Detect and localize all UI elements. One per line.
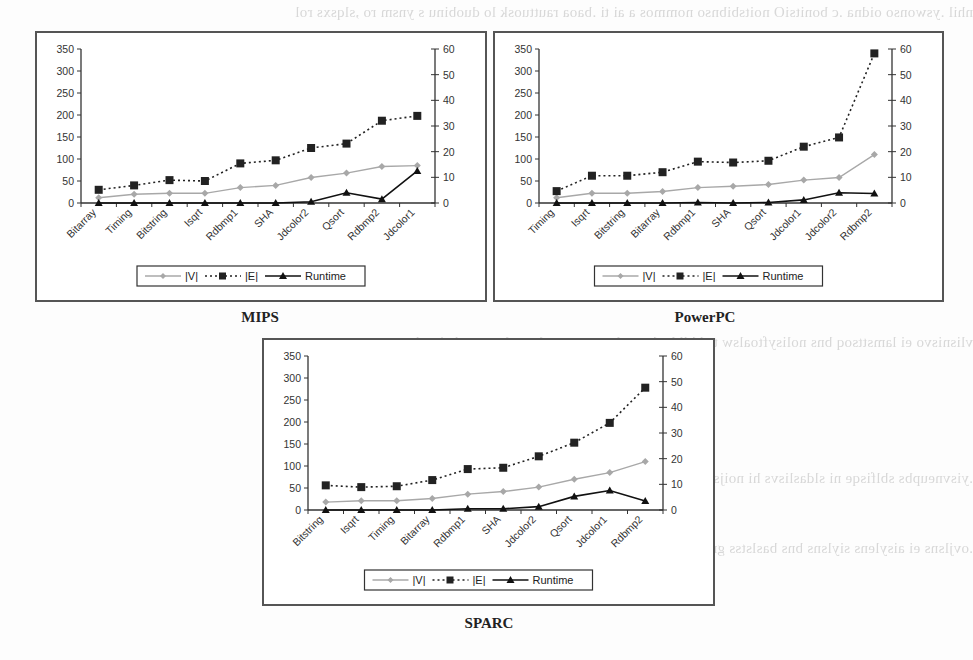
mips-chart: 0501001502002503003500102030405060Bitarr…: [35, 31, 487, 302]
svg-text:50: 50: [900, 69, 912, 81]
svg-text:10: 10: [900, 171, 912, 183]
svg-text:40: 40: [900, 94, 912, 106]
svg-text:50: 50: [520, 175, 532, 187]
svg-text:150: 150: [283, 438, 301, 450]
svg-text:250: 250: [514, 87, 532, 99]
svg-text:Rdbmp2: Rdbmp2: [608, 513, 645, 550]
svg-text:|E|: |E|: [473, 574, 486, 586]
svg-text:Bitarray: Bitarray: [398, 512, 433, 547]
svg-text:Jdcolor1: Jdcolor1: [767, 206, 804, 243]
svg-text:150: 150: [514, 131, 532, 143]
svg-text:150: 150: [56, 131, 74, 143]
svg-text:10: 10: [671, 478, 683, 490]
svg-text:|E|: |E|: [703, 270, 716, 282]
svg-text:40: 40: [443, 94, 455, 106]
svg-text:Bitstring: Bitstring: [134, 206, 169, 241]
svg-text:30: 30: [900, 120, 912, 132]
powerpc-caption: PowerPC: [605, 309, 805, 326]
chart-plot: 0501001502002503003500102030405060Bitstr…: [264, 340, 713, 604]
svg-text:50: 50: [289, 482, 301, 494]
svg-text:Bitarray: Bitarray: [64, 205, 99, 240]
svg-text:Jdcolor2: Jdcolor2: [274, 206, 311, 243]
svg-text:Isqrt: Isqrt: [338, 513, 361, 536]
svg-text:200: 200: [56, 109, 74, 121]
svg-text:Bitstring: Bitstring: [591, 206, 626, 241]
svg-text:10: 10: [443, 171, 455, 183]
svg-text:Rdbmp2: Rdbmp2: [345, 206, 382, 243]
svg-text:Timing: Timing: [526, 206, 557, 237]
svg-text:30: 30: [671, 427, 683, 439]
svg-text:Rdbmp2: Rdbmp2: [837, 206, 874, 243]
svg-text:Runtime: Runtime: [305, 270, 346, 282]
svg-text:250: 250: [56, 87, 74, 99]
svg-text:100: 100: [56, 153, 74, 165]
svg-text:0: 0: [68, 197, 74, 209]
svg-text:SHA: SHA: [479, 513, 503, 537]
svg-text:60: 60: [671, 350, 683, 362]
svg-text:50: 50: [443, 69, 455, 81]
svg-text:Jdcolor2: Jdcolor2: [802, 206, 839, 243]
svg-text:100: 100: [514, 153, 532, 165]
svg-text:|V|: |V|: [643, 270, 656, 282]
svg-text:Jdcolor1: Jdcolor1: [573, 513, 610, 550]
svg-text:100: 100: [283, 460, 301, 472]
svg-text:Rdbmp1: Rdbmp1: [661, 206, 698, 243]
svg-text:50: 50: [62, 175, 74, 187]
svg-text:40: 40: [671, 401, 683, 413]
svg-text:Jdcolor1: Jdcolor1: [380, 206, 417, 243]
svg-text:30: 30: [443, 120, 455, 132]
svg-text:Qsort: Qsort: [741, 206, 768, 233]
svg-text:350: 350: [283, 350, 301, 362]
svg-text:200: 200: [514, 109, 532, 121]
svg-text:0: 0: [295, 504, 301, 516]
svg-text:0: 0: [671, 504, 677, 516]
svg-text:0: 0: [900, 197, 906, 209]
svg-text:Isqrt: Isqrt: [568, 206, 591, 229]
svg-text:20: 20: [900, 146, 912, 158]
svg-text:Qsort: Qsort: [319, 206, 346, 233]
svg-text:Timing: Timing: [366, 513, 397, 544]
svg-text:300: 300: [283, 372, 301, 384]
chart-plot: 0501001502002503003500102030405060Timing…: [495, 33, 942, 300]
svg-text:0: 0: [526, 197, 532, 209]
svg-text:Rdbmp1: Rdbmp1: [203, 206, 240, 243]
svg-text:Timing: Timing: [103, 206, 134, 237]
sparc-chart: 0501001502002503003500102030405060Bitstr…: [262, 338, 715, 606]
svg-text:Qsort: Qsort: [547, 513, 574, 540]
svg-text:Rdbmp1: Rdbmp1: [431, 513, 468, 550]
svg-text:|V|: |V|: [185, 270, 198, 282]
svg-text:Isqrt: Isqrt: [181, 206, 204, 229]
svg-text:60: 60: [443, 43, 455, 55]
svg-text:60: 60: [900, 43, 912, 55]
svg-text:SHA: SHA: [251, 206, 275, 230]
svg-text:Runtime: Runtime: [533, 574, 574, 586]
chart-legend: |V||E|Runtime: [595, 266, 823, 286]
chart-legend: |V||E|Runtime: [365, 570, 593, 590]
sparc-caption: SPARC: [389, 615, 589, 632]
svg-text:200: 200: [283, 416, 301, 428]
bleed-through-text: nhil .yswonso oidna .c bonitsiO noitsbib…: [0, 4, 973, 21]
svg-text:|V|: |V|: [413, 574, 426, 586]
svg-text:50: 50: [671, 376, 683, 388]
chart-legend: |V||E|Runtime: [137, 266, 365, 286]
svg-text:Runtime: Runtime: [763, 270, 804, 282]
svg-text:|E|: |E|: [245, 270, 258, 282]
svg-text:Bitarray: Bitarray: [628, 205, 663, 240]
svg-text:SHA: SHA: [709, 206, 733, 230]
chart-plot: 0501001502002503003500102030405060Bitarr…: [37, 33, 485, 300]
powerpc-chart: 0501001502002503003500102030405060Timing…: [493, 31, 944, 302]
svg-text:20: 20: [443, 146, 455, 158]
mips-caption: MIPS: [160, 309, 360, 326]
svg-text:250: 250: [283, 394, 301, 406]
svg-text:350: 350: [56, 43, 74, 55]
svg-text:300: 300: [56, 65, 74, 77]
svg-text:20: 20: [671, 453, 683, 465]
svg-text:Jdcolor2: Jdcolor2: [502, 513, 539, 550]
svg-text:0: 0: [443, 197, 449, 209]
svg-text:350: 350: [514, 43, 532, 55]
svg-text:Bitstring: Bitstring: [290, 513, 325, 548]
svg-text:300: 300: [514, 65, 532, 77]
